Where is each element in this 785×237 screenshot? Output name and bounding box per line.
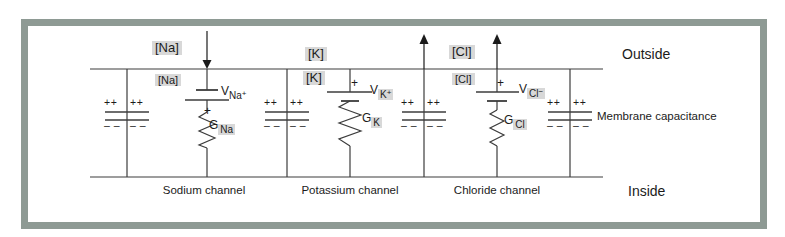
voltage-symbol: V xyxy=(221,84,229,98)
conductance-symbol: G xyxy=(362,111,371,125)
capacitor-plus-marks: ++ xyxy=(104,97,117,109)
chloride-resistor xyxy=(490,110,504,146)
sodium-voltage-label: VNa+ xyxy=(221,85,246,101)
inside-label: Inside xyxy=(628,184,665,199)
voltage-symbol: V xyxy=(370,83,378,97)
sodium-battery-plus-sign: + xyxy=(204,105,211,118)
potassium-efflux-arrow-icon xyxy=(420,34,429,69)
capacitor-minus-marks: – – xyxy=(104,120,120,132)
capacitor-plus-marks: ++ xyxy=(573,97,586,109)
chloride-voltage-label: VCl− xyxy=(519,83,545,99)
chloride-efflux-arrow-icon xyxy=(493,34,502,69)
ion-symbol: Na xyxy=(229,90,242,101)
ion-charge: + xyxy=(242,89,247,98)
capacitor-minus-marks: – – xyxy=(427,120,443,132)
potassium-battery-plus-sign: + xyxy=(351,77,358,90)
potassium-channel-label: Potassium channel xyxy=(290,184,410,197)
capacitor-minus-marks: – – xyxy=(401,120,417,132)
sodium-inside-concentration: [Na] xyxy=(155,74,181,86)
ion-symbol: Cl xyxy=(515,119,524,130)
chloride-outside-concentration: [Cl] xyxy=(449,45,475,59)
sodium-channel-label: Sodium channel xyxy=(144,184,264,197)
capacitor-plus-marks: ++ xyxy=(130,97,143,109)
potassium-conductance-label: GK xyxy=(362,112,382,128)
capacitor-minus-marks: – – xyxy=(130,120,146,132)
capacitor-minus-marks: – – xyxy=(573,120,589,132)
ion-symbol: K xyxy=(373,117,380,128)
conductance-symbol: G xyxy=(209,118,218,132)
conductance-symbol: G xyxy=(504,113,513,127)
potassium-voltage-label: VK+ xyxy=(370,84,393,100)
chloride-inside-concentration: [Cl] xyxy=(452,73,475,85)
ion-charge: + xyxy=(387,88,392,97)
chloride-battery-plus-sign: + xyxy=(497,77,504,90)
sodium-influx-arrow-icon xyxy=(203,31,212,69)
capacitor-plus-marks: ++ xyxy=(264,97,277,109)
ion-symbol: Na xyxy=(220,124,233,135)
voltage-symbol: V xyxy=(519,82,527,96)
potassium-resistor xyxy=(339,101,361,146)
membrane-circuit-figure: Outside Inside Membrane capacitance [Na]… xyxy=(0,0,785,237)
capacitor-plus-marks: ++ xyxy=(290,97,303,109)
capacitor-plus-marks: ++ xyxy=(427,97,440,109)
capacitor-minus-marks: – – xyxy=(264,120,280,132)
sodium-conductance-label: GNa xyxy=(209,119,235,135)
membrane-capacitance-label: Membrane capacitance xyxy=(597,110,717,123)
potassium-inside-concentration: [K] xyxy=(303,71,325,85)
ion-charge: − xyxy=(538,87,543,96)
capacitor-plus-marks: ++ xyxy=(401,97,414,109)
outside-label: Outside xyxy=(622,47,670,62)
potassium-outside-concentration: [K] xyxy=(305,47,327,61)
capacitor-minus-marks: – – xyxy=(290,120,306,132)
sodium-outside-concentration: [Na] xyxy=(152,41,182,55)
capacitor-plus-marks: ++ xyxy=(547,97,560,109)
chloride-conductance-label: GCl xyxy=(504,114,527,130)
chloride-channel-label: Chloride channel xyxy=(437,184,557,197)
ion-symbol: K xyxy=(380,89,387,100)
capacitor-minus-marks: – – xyxy=(547,120,563,132)
